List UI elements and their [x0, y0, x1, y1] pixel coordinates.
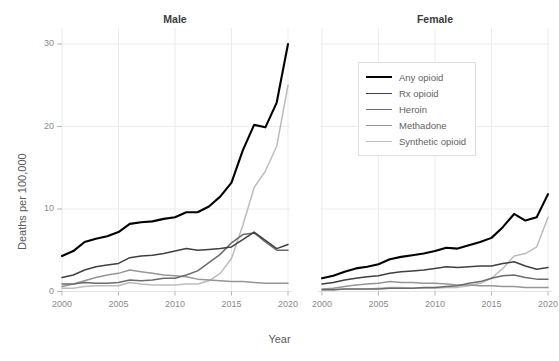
legend-item[interactable]: Any opioid [366, 69, 466, 85]
legend-item[interactable]: Synthetic opioid [366, 133, 466, 149]
x-tick-label: 2000 [302, 299, 342, 309]
chart-figure: Deaths per 100,000 Year Male Female 0102… [0, 0, 559, 361]
x-tick-label: 2015 [472, 299, 512, 309]
legend-swatch-icon [366, 76, 392, 78]
legend-item-label: Methadone [399, 120, 447, 131]
x-axis-title: Year [0, 333, 559, 345]
facet-title-female: Female [375, 13, 495, 25]
legend-item[interactable]: Heroin [366, 101, 466, 117]
legend-swatch-icon [366, 141, 392, 142]
y-tick-label: 0 [22, 286, 54, 296]
legend-swatch-icon [366, 93, 392, 94]
legend: Any opioidRx opioidHeroinMethadoneSynthe… [358, 62, 476, 156]
x-tick-label: 2000 [42, 299, 82, 309]
x-tick-label: 2005 [99, 299, 139, 309]
legend-item[interactable]: Methadone [366, 117, 466, 133]
legend-swatch-icon [366, 125, 392, 126]
legend-item-label: Heroin [399, 104, 427, 115]
y-axis-title: Deaths per 100,000 [16, 153, 28, 250]
facet-title-male: Male [115, 13, 235, 25]
x-tick-label: 2010 [155, 299, 195, 309]
x-tick-label: 2015 [212, 299, 252, 309]
legend-item-label: Synthetic opioid [399, 136, 466, 147]
y-tick-label: 10 [22, 203, 54, 213]
x-tick-label: 2005 [359, 299, 399, 309]
legend-item[interactable]: Rx opioid [366, 85, 466, 101]
y-tick-label: 20 [22, 121, 54, 131]
x-tick-label: 2020 [528, 299, 559, 309]
legend-item-label: Rx opioid [399, 88, 439, 99]
legend-swatch-icon [366, 109, 392, 110]
x-tick-label: 2010 [415, 299, 455, 309]
y-tick-label: 30 [22, 38, 54, 48]
legend-item-label: Any opioid [399, 72, 443, 83]
